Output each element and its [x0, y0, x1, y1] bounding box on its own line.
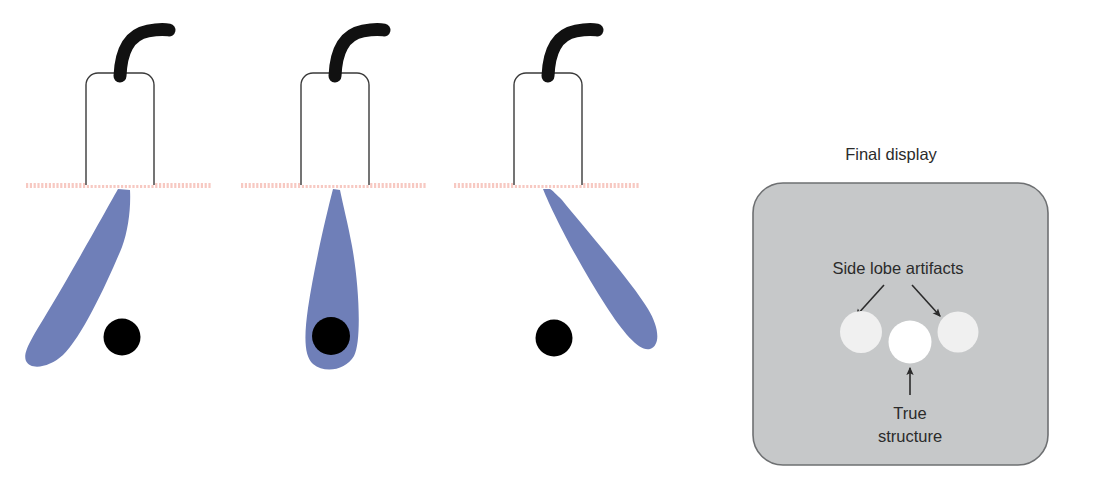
- diagram-canvas: Final display Side lobe artifacts True s…: [0, 0, 1098, 483]
- figure-root: Final display Side lobe artifacts True s…: [0, 0, 1098, 483]
- final-display-panel[interactable]: Final display Side lobe artifacts True s…: [753, 145, 1048, 465]
- true-structure-label-line1: True: [893, 404, 926, 422]
- side-lobe-left-spot: [840, 311, 882, 353]
- target-structure-2: [312, 317, 350, 355]
- transducer-body-2: [301, 73, 369, 185]
- side-lobe-right-spot: [938, 312, 979, 353]
- transducer-body-1: [86, 73, 154, 185]
- final-display-title: Final display: [845, 145, 937, 163]
- true-structure-spot: [889, 321, 932, 364]
- side-lobe-artifacts-label: Side lobe artifacts: [832, 259, 963, 277]
- true-structure-label-line2: structure: [878, 427, 942, 445]
- target-structure-3: [536, 320, 573, 357]
- transducer-body-3: [514, 73, 582, 185]
- target-structure-1: [104, 319, 141, 356]
